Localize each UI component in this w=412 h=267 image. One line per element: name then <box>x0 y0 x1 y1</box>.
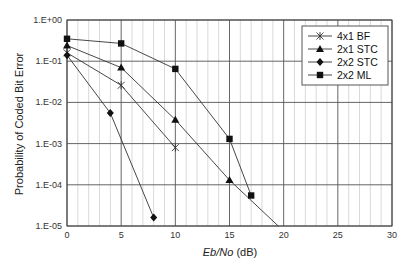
y-tick-label: 1.E-04 <box>35 180 62 190</box>
legend-label: 2x2 ML <box>337 69 372 81</box>
series-line <box>67 39 251 196</box>
x-tick-label: 0 <box>64 230 69 240</box>
x-tick-label: 30 <box>387 230 397 240</box>
diamond-marker-icon <box>150 214 157 222</box>
y-tick-label: 1.E-01 <box>35 56 62 66</box>
star-marker-icon <box>172 144 179 152</box>
series <box>63 36 278 226</box>
legend-label: 2x1 STC <box>337 43 378 55</box>
x-axis-label-unit: (dB) <box>233 246 257 258</box>
triangle-marker-icon <box>117 64 125 71</box>
y-tick-label: 1.E-05 <box>35 221 62 231</box>
square-marker-icon <box>172 66 178 72</box>
square-marker-icon <box>248 192 254 198</box>
square-marker-icon <box>118 40 124 46</box>
x-tick-label: 20 <box>279 230 289 240</box>
y-tick-label: 1.E+00 <box>33 15 62 25</box>
series-2x2-ml <box>64 36 255 199</box>
triangle-marker-icon <box>63 42 71 49</box>
ber-chart: 0510152025301.E+001.E-011.E-021.E-031.E-… <box>0 0 412 267</box>
x-axis-label-italic: Eb/No <box>203 246 234 258</box>
square-marker-icon <box>317 72 323 78</box>
y-tick-label: 1.E-02 <box>35 97 62 107</box>
x-tick-label: 5 <box>119 230 124 240</box>
x-tick-label: 10 <box>170 230 180 240</box>
legend-label: 2x2 STC <box>337 56 378 68</box>
square-marker-icon <box>64 36 70 42</box>
series-2x1-stc <box>63 42 278 226</box>
series-line <box>67 46 278 226</box>
legend: 4x1 BF2x1 STC2x2 STC2x2 ML <box>302 26 388 85</box>
y-axis-label: Probability of Coded Bit Error <box>13 52 25 195</box>
y-tick-label: 1.E-03 <box>35 139 62 149</box>
x-tick-label: 25 <box>333 230 343 240</box>
x-tick-label: 15 <box>224 230 234 240</box>
square-marker-icon <box>226 136 232 142</box>
legend-label: 4x1 BF <box>337 30 370 42</box>
star-marker-icon <box>118 81 125 89</box>
x-axis-label: Eb/No (dB) <box>203 246 257 258</box>
